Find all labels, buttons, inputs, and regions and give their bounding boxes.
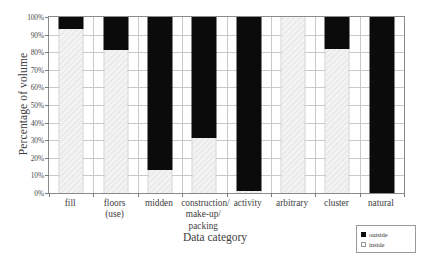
y-tick-label: 20% [31, 153, 44, 162]
bar-slot [271, 17, 315, 193]
chart-figure: Percentage of volume 0%10%20%30%40%50%60… [0, 0, 423, 266]
bar-segment-outside [59, 17, 84, 29]
x-tick-label: midden [137, 198, 181, 209]
legend-swatch-outside-icon [361, 232, 366, 237]
legend-label-inside: inside [369, 241, 384, 248]
bar-segment-outside [103, 17, 128, 50]
bar-segment-outside [325, 17, 350, 49]
y-tick-label: 40% [31, 118, 44, 127]
y-tick-label: 100% [27, 13, 44, 22]
x-tick-label: floors (use) [92, 198, 136, 221]
stacked-bar[interactable] [369, 17, 394, 193]
bar-slot [93, 17, 137, 193]
bar-segment-inside [325, 49, 350, 193]
bar-slot [315, 17, 359, 193]
bar-segment-outside [147, 17, 172, 170]
y-tick-label: 60% [31, 83, 44, 92]
x-tick-label: activity [226, 198, 270, 209]
bar-segment-outside [192, 17, 217, 138]
stacked-bar[interactable] [236, 17, 261, 193]
y-tick-label: 70% [31, 65, 44, 74]
x-tick-mark [271, 193, 272, 197]
x-tick-mark [315, 193, 316, 197]
x-tick-mark [138, 193, 139, 197]
bar-segment-inside [236, 191, 261, 193]
stacked-bar[interactable] [147, 17, 172, 193]
bar-slot [49, 17, 93, 193]
x-tick-label: arbitrary [270, 198, 314, 209]
bar-segment-inside [59, 29, 84, 193]
bar-slot [138, 17, 182, 193]
stacked-bar[interactable] [192, 17, 217, 193]
bar-segment-outside [369, 17, 394, 193]
bar-segment-inside [147, 170, 172, 193]
bar-slot [360, 17, 404, 193]
legend-label-outside: outside [369, 231, 388, 238]
x-axis-title: Data category [130, 231, 300, 243]
bar-segment-inside [103, 50, 128, 193]
legend-item-outside: outside [361, 229, 411, 239]
x-tick-mark [360, 193, 361, 197]
y-tick-label: 10% [31, 171, 44, 180]
x-tick-label: construction/ make-up/ packing [181, 198, 225, 232]
y-tick-label: 90% [31, 30, 44, 39]
x-tick-label: natural [359, 198, 403, 209]
x-tick-mark [93, 193, 94, 197]
x-tick-mark [227, 193, 228, 197]
bar-segment-outside [236, 17, 261, 191]
legend-swatch-inside-icon [361, 242, 366, 247]
stacked-bar[interactable] [103, 17, 128, 193]
y-tick-label: 30% [31, 136, 44, 145]
y-tick-label: 50% [31, 101, 44, 110]
x-tick-mark [404, 193, 405, 197]
x-tick-label: cluster [314, 198, 358, 209]
x-tick-mark [182, 193, 183, 197]
plot-area: 0%10%20%30%40%50%60%70%80%90%100% [48, 16, 405, 194]
y-axis-title: Percentage of volume [17, 14, 29, 194]
x-tick-label: fill [48, 198, 92, 209]
bar-slot [182, 17, 226, 193]
x-tick-mark [49, 193, 50, 197]
y-tick-label: 80% [31, 48, 44, 57]
bar-segment-inside [192, 138, 217, 193]
legend-item-inside: inside [361, 239, 411, 249]
chart-legend: outside inside [356, 225, 416, 253]
bar-slot [227, 17, 271, 193]
stacked-bar[interactable] [59, 17, 84, 193]
stacked-bar[interactable] [325, 17, 350, 193]
y-tick-label: 0% [34, 189, 44, 198]
bar-segment-inside [281, 17, 306, 193]
stacked-bar[interactable] [281, 17, 306, 193]
